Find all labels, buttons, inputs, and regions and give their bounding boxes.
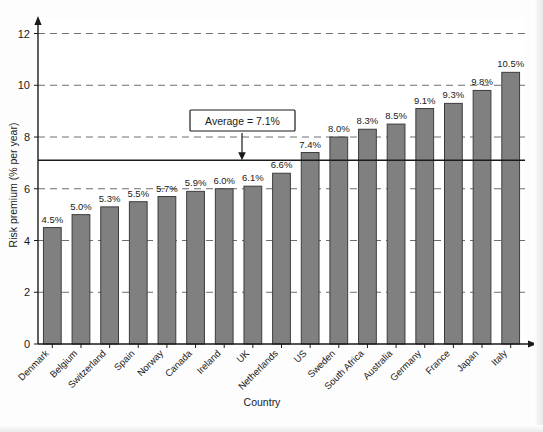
- bar: [158, 197, 176, 344]
- x-axis-category-label: Denmark: [16, 347, 51, 382]
- bar: [416, 109, 434, 344]
- x-axis-category-label: Canada: [163, 347, 195, 379]
- bar-value-label: 10.5%: [497, 58, 524, 69]
- bar-value-label: 8.3%: [357, 115, 379, 126]
- bar-value-label: 4.5%: [41, 214, 63, 225]
- x-axis-category-label: Spain: [112, 348, 137, 373]
- y-axis-tick-label: 0: [24, 338, 30, 350]
- bar: [445, 103, 463, 344]
- y-axis-tick-label: 8: [24, 131, 30, 143]
- bar: [72, 215, 90, 344]
- x-axis-category-label: UK: [234, 347, 252, 365]
- page-edge-shading-bottom: [0, 425, 543, 432]
- x-axis-category-label: Norway: [135, 347, 166, 378]
- x-axis-category-label: Japan: [454, 348, 480, 374]
- bar: [359, 129, 377, 344]
- bar-value-label: 8.5%: [385, 110, 407, 121]
- x-axis-title: Country: [244, 396, 282, 408]
- y-axis-tick-label: 12: [18, 28, 30, 40]
- bar-value-label: 9.1%: [414, 95, 436, 106]
- bar: [301, 153, 319, 344]
- bar: [215, 189, 233, 344]
- y-axis-tick-label: 10: [18, 79, 30, 91]
- bar: [129, 202, 147, 344]
- bar: [101, 207, 119, 344]
- bar-value-label: 9.8%: [471, 76, 493, 87]
- bar: [330, 137, 348, 344]
- bar-value-label: 5.7%: [156, 183, 178, 194]
- bar-value-label: 5.3%: [99, 193, 121, 204]
- bar: [43, 228, 61, 344]
- bar-value-label: 5.5%: [127, 188, 149, 199]
- y-axis-title: Risk premium (% per year): [7, 123, 19, 248]
- bar: [502, 72, 520, 344]
- x-axis-category-label: Germany: [388, 347, 424, 383]
- bar-value-label: 7.4%: [299, 139, 321, 150]
- x-axis-category-label: Italy: [489, 347, 509, 367]
- bar-value-label: 5.9%: [185, 177, 207, 188]
- y-axis-tick-label: 6: [24, 183, 30, 195]
- bar: [387, 124, 405, 344]
- bar-value-label: 9.3%: [443, 89, 465, 100]
- bar-value-label: 6.0%: [213, 175, 235, 186]
- bar-value-label: 8.0%: [328, 123, 350, 134]
- x-axis-category-label: Ireland: [194, 348, 222, 376]
- x-axis-category-label: France: [423, 348, 452, 377]
- x-axis-category-labels: DenmarkBelgiumSwitzerlandSpainNorwayCana…: [16, 347, 510, 392]
- risk-premium-bar-chart: Average = 7.1% 024681012 4.5%5.0%5.3%5.5…: [0, 0, 543, 432]
- chart-figure: Average = 7.1% 024681012 4.5%5.0%5.3%5.5…: [0, 0, 543, 432]
- y-axis-tick-label: 2: [24, 286, 30, 298]
- page-edge-shading-right: [534, 0, 543, 432]
- x-axis-category-label: US: [291, 348, 308, 365]
- bar: [273, 173, 291, 344]
- bar-value-label: 6.1%: [242, 172, 264, 183]
- bar-value-label: 6.6%: [271, 159, 293, 170]
- bar-value-label: 5.0%: [70, 201, 92, 212]
- bar: [244, 186, 262, 344]
- bar: [473, 90, 491, 344]
- bar: [187, 191, 205, 344]
- average-callout-label: Average = 7.1%: [205, 115, 280, 127]
- y-axis-ticks: 024681012: [18, 28, 38, 350]
- y-axis-tick-label: 4: [24, 235, 30, 247]
